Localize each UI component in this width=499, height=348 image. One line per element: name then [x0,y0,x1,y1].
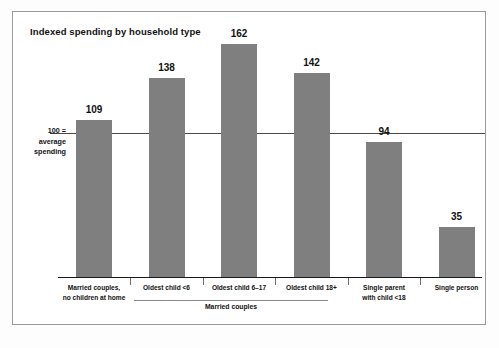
axis-label-line-1: 100 = [18,126,66,137]
bar-value-label: 138 [135,62,199,73]
category-label-line: no children at home [54,293,134,303]
category-label: Single person [417,283,497,293]
category-label-line: Oldest child 6–17 [199,283,279,293]
bar [221,44,257,277]
group-bracket-rule [134,300,328,301]
bar-value-label: 35 [425,211,489,222]
category-label-line: with child <18 [344,293,424,303]
group-bracket-label: Married couples [134,303,328,310]
chart-figure: Indexed spending by household type 100 =… [0,0,499,348]
category-label: Single parentwith child <18 [344,283,424,303]
category-label-line: Married couples, [54,283,134,293]
bar [76,120,112,277]
bar [294,73,330,277]
category-label: Oldest child 18+ [272,283,352,293]
category-label-line: Oldest child <6 [127,283,207,293]
bar-value-label: 109 [62,104,126,115]
x-axis-baseline [58,277,482,278]
category-label: Oldest child <6 [127,283,207,293]
category-label: Oldest child 6–17 [199,283,279,293]
bar-value-label: 162 [207,28,271,39]
reference-line-100 [57,133,485,134]
axis-label-line-2: average [18,137,66,148]
chart-title: Indexed spending by household type [30,26,201,37]
category-label-line: Single parent [344,283,424,293]
category-label: Married couples,no children at home [54,283,134,303]
bar-value-label: 94 [352,126,416,137]
category-label-line: Single person [417,283,497,293]
bar [439,227,475,277]
axis-label-line-3: spending [18,147,66,158]
category-label-line: Oldest child 18+ [272,283,352,293]
bar [149,78,185,277]
y-axis-reference-label: 100 = average spending [18,126,66,158]
bar-value-label: 142 [280,57,344,68]
bar [366,142,402,277]
